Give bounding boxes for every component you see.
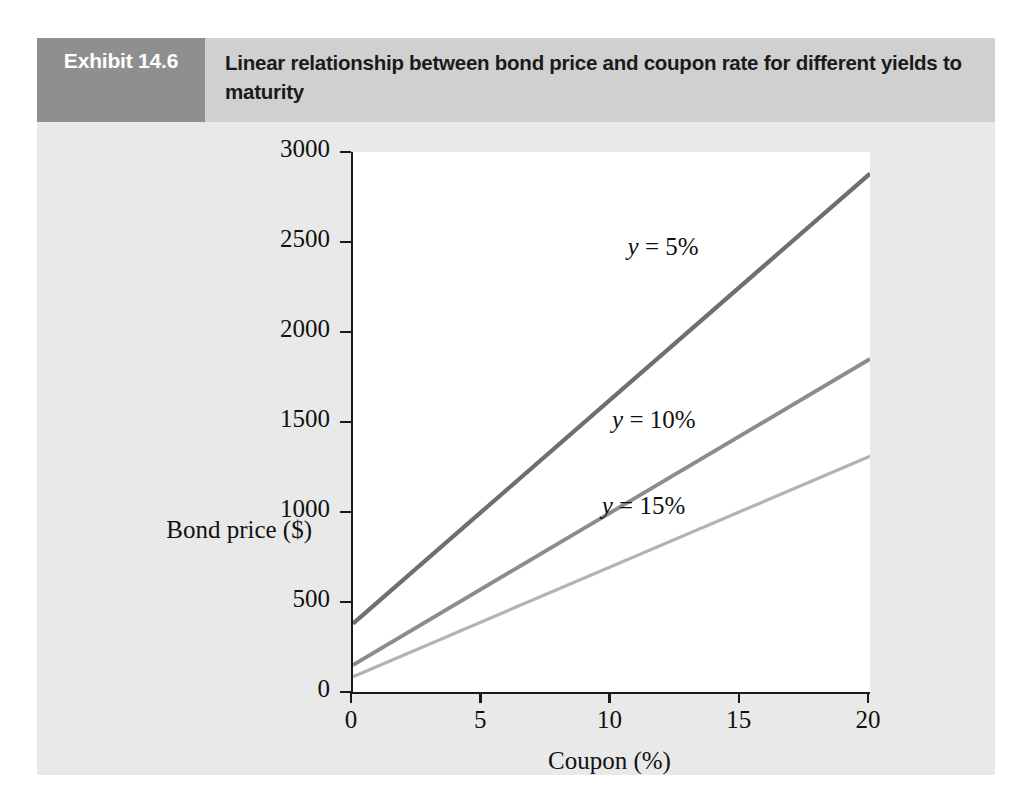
- exhibit-number-label: Exhibit 14.6: [64, 49, 178, 73]
- series-label-2: y = 10%: [612, 406, 696, 434]
- x-tick-mark: [350, 692, 353, 703]
- y-tick-label: 2000: [217, 315, 330, 343]
- series-line-3: [353, 456, 870, 677]
- screenshot-root: Exhibit 14.6 Linear relationship between…: [0, 0, 1026, 803]
- y-tick-mark: [340, 241, 351, 244]
- y-axis-title: Bond price ($): [122, 516, 312, 544]
- x-tick-mark: [608, 692, 611, 703]
- y-tick-label: 1500: [217, 405, 330, 433]
- y-tick-mark: [340, 601, 351, 604]
- y-tick-label: 3000: [217, 135, 330, 163]
- exhibit-number-box: Exhibit 14.6: [37, 38, 205, 122]
- y-tick-mark: [340, 151, 351, 154]
- exhibit-title: Linear relationship between bond price a…: [225, 48, 965, 106]
- x-tick-label: 20: [828, 706, 908, 734]
- x-tick-label: 0: [311, 706, 391, 734]
- y-tick-label: 0: [217, 675, 330, 703]
- y-tick-label: 500: [217, 585, 330, 613]
- exhibit-panel: Exhibit 14.6 Linear relationship between…: [37, 38, 995, 775]
- x-tick-mark: [479, 692, 482, 703]
- x-axis-title: Coupon (%): [351, 747, 868, 775]
- y-tick-mark: [340, 421, 351, 424]
- x-tick-label: 5: [440, 706, 520, 734]
- series-label-3: y = 15%: [602, 492, 686, 520]
- y-tick-label: 2500: [217, 225, 330, 253]
- x-tick-label: 15: [699, 706, 779, 734]
- y-tick-mark: [340, 331, 351, 334]
- plot-area: [351, 152, 870, 694]
- y-tick-mark: [340, 511, 351, 514]
- series-line-1: [353, 174, 870, 624]
- series-label-1: y = 5%: [628, 233, 699, 261]
- x-tick-mark: [738, 692, 741, 703]
- exhibit-header: Exhibit 14.6 Linear relationship between…: [37, 38, 995, 122]
- chart-region: 050010001500200025003000 05101520 y = 5%…: [37, 122, 995, 775]
- x-tick-mark: [867, 692, 870, 703]
- x-tick-label: 10: [570, 706, 650, 734]
